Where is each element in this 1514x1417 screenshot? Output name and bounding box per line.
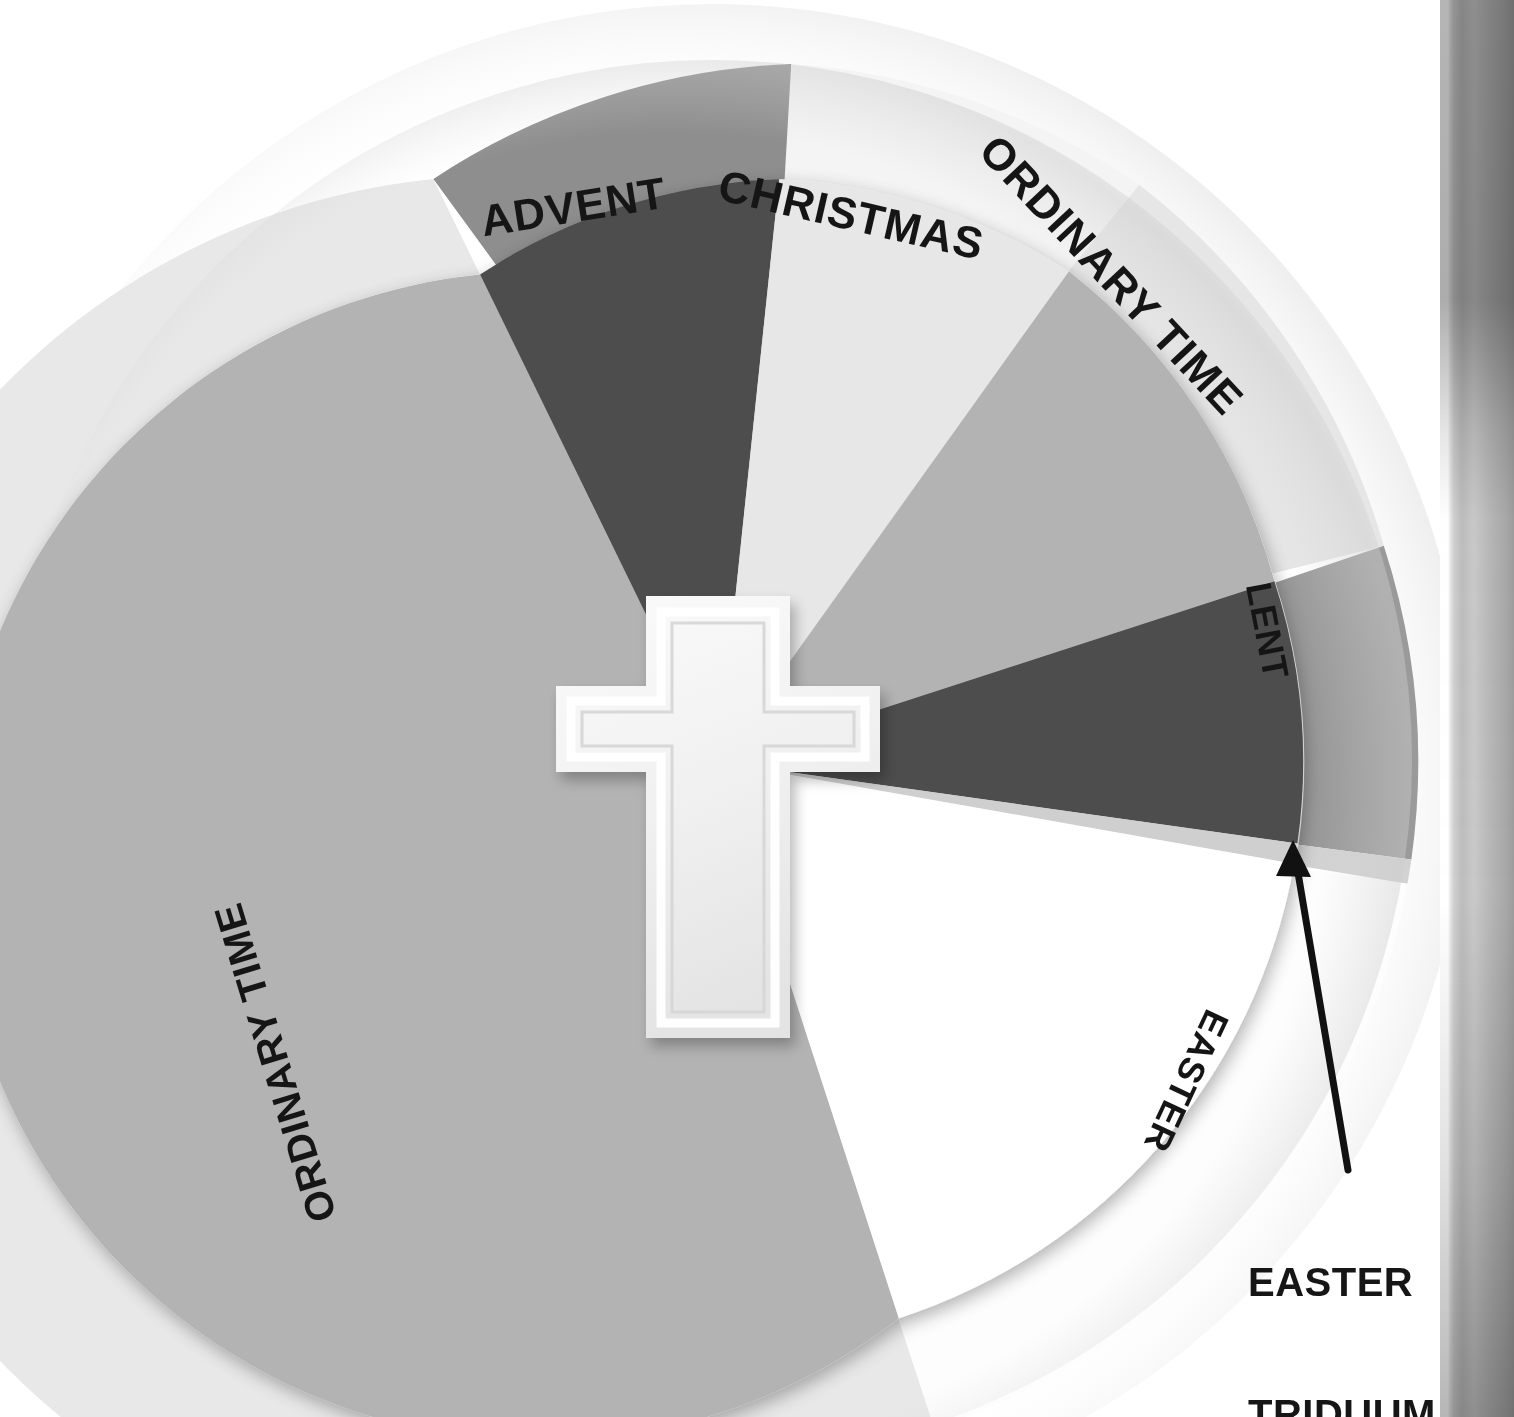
easter-triduum-annotation: EASTER TRIDUUM 3 days xyxy=(1248,1172,1436,1417)
liturgical-wheel-page: ADVENT CHRISTMAS ORDINARY TIME LENT EAST… xyxy=(0,0,1514,1417)
annotation-line-1: EASTER xyxy=(1248,1260,1436,1304)
page-edge-shading xyxy=(1440,0,1514,1417)
annotation-line-2: TRIDUUM xyxy=(1248,1392,1436,1417)
